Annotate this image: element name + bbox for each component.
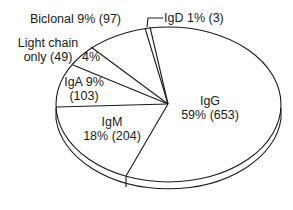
label-igm: IgM 18% (204) [83, 115, 141, 143]
label-light-chain: Light chain only (49) [18, 36, 78, 64]
label-igg: IgG 59% (653) [181, 94, 239, 122]
label-biclonal: Biclonal 9% (97) [30, 12, 121, 26]
igg-name: IgG [181, 94, 239, 108]
iga-line2: (103) [64, 89, 104, 103]
label-igd: IgD 1% (3) [164, 11, 224, 25]
igg-value: 59% (653) [181, 108, 239, 122]
igm-name: IgM [83, 115, 141, 129]
pie-chart [0, 0, 293, 210]
iga-line1: IgA 9% [64, 75, 104, 89]
label-iga: IgA 9% (103) [64, 75, 104, 103]
light-line2: only (49) [18, 50, 78, 64]
label-light-chain-pct: 4% [82, 50, 100, 64]
light-line1: Light chain [18, 36, 78, 50]
igm-value: 18% (204) [83, 129, 141, 143]
igd-leader [147, 18, 163, 27]
